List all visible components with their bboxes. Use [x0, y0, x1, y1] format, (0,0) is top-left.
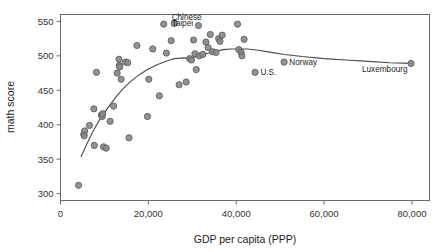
x-tick-label: 20,000	[134, 208, 163, 219]
data-point	[281, 59, 287, 65]
data-point	[252, 69, 258, 75]
data-point	[200, 51, 206, 57]
y-tick-label: 350	[38, 154, 54, 165]
data-point	[163, 50, 169, 56]
data-point	[241, 36, 247, 42]
data-point	[118, 76, 124, 82]
data-point	[126, 135, 132, 141]
data-point	[183, 79, 189, 85]
data-point	[117, 64, 123, 70]
y-tick-label: 300	[38, 188, 54, 199]
data-point	[100, 111, 106, 117]
x-tick-label: 0	[58, 208, 63, 219]
data-point	[150, 46, 156, 52]
data-point	[168, 38, 174, 44]
data-point	[219, 32, 225, 38]
data-point	[156, 93, 162, 99]
y-axis-ticks: 300350400450500550	[38, 16, 61, 199]
data-point	[107, 118, 113, 124]
data-point	[191, 37, 197, 43]
scatter-plot: 300350400450500550 020,00040,00060,00080…	[0, 0, 447, 252]
annotation-label: U.S.	[260, 68, 276, 77]
x-tick-label: 40,000	[222, 208, 251, 219]
y-tick-label: 450	[38, 85, 54, 96]
x-tick-label: 80,000	[397, 208, 426, 219]
annotation-label: Norway	[289, 58, 318, 67]
data-point	[161, 21, 167, 27]
data-point	[91, 106, 97, 112]
data-point	[193, 67, 199, 73]
data-point	[195, 22, 201, 28]
data-point	[134, 42, 140, 48]
chart-figure: 300350400450500550 020,00040,00060,00080…	[0, 0, 447, 252]
data-point	[93, 69, 99, 75]
x-axis-ticks: 020,00040,00060,00080,000	[58, 201, 427, 219]
x-tick-label: 60,000	[310, 208, 339, 219]
data-point	[125, 60, 131, 66]
data-point	[408, 60, 414, 66]
data-point	[86, 122, 92, 128]
data-point	[114, 70, 120, 76]
data-points	[75, 20, 414, 188]
y-tick-label: 550	[38, 16, 54, 27]
data-point	[213, 49, 219, 55]
y-axis-title: math score	[4, 81, 16, 133]
data-point	[111, 103, 117, 109]
data-point	[116, 56, 122, 62]
data-point	[146, 76, 152, 82]
data-point	[188, 57, 194, 63]
annotation-label: Luxembourg	[362, 65, 408, 74]
data-point	[91, 142, 97, 148]
x-axis-title: GDP per capita (PPP)	[194, 233, 297, 245]
data-point	[81, 133, 87, 139]
annotation-label: Taipei	[172, 19, 194, 28]
data-point	[75, 182, 81, 188]
data-point	[176, 82, 182, 88]
y-tick-label: 500	[38, 50, 54, 61]
data-point	[103, 145, 109, 151]
data-point	[234, 21, 240, 27]
data-point	[144, 113, 150, 119]
data-point	[217, 38, 223, 44]
data-point	[239, 53, 245, 59]
data-point	[207, 31, 213, 37]
y-tick-label: 400	[38, 119, 54, 130]
